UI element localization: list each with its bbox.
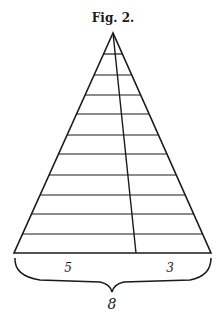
divider-line (113, 33, 136, 253)
label-left-segment: 5 (64, 261, 72, 275)
figure-caption: Fig. 2. (92, 11, 134, 25)
horizontal-lines (23, 54, 203, 234)
brace (15, 258, 211, 292)
triangle-outline (14, 33, 211, 253)
triangle-figure: Fig. 2. 5 3 8 (0, 0, 223, 316)
label-total: 8 (108, 296, 117, 312)
label-right-segment: 3 (166, 261, 174, 275)
